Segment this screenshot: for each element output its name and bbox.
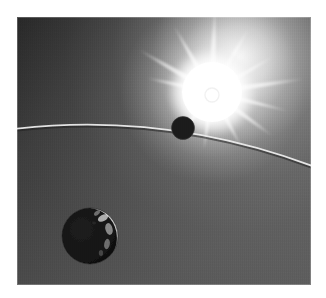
crescent-planet-layer <box>17 17 311 285</box>
screenshot-canvas: Planetary transit across a star Star Tra… <box>0 0 326 298</box>
illustration-frame <box>17 17 311 285</box>
